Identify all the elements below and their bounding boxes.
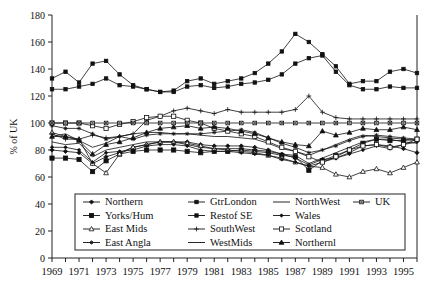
chart-container: 020406080100120140160180% of UK196919711… (0, 0, 443, 293)
data-point (104, 126, 108, 130)
data-point (388, 145, 392, 149)
data-point (388, 85, 391, 88)
data-point (64, 146, 67, 149)
data-point (375, 88, 378, 91)
data-point (307, 168, 311, 172)
data-point (267, 62, 270, 65)
legend-marker-icon (195, 200, 198, 203)
data-point (401, 147, 405, 151)
y-tick-label: 100 (30, 118, 45, 129)
data-point (104, 155, 108, 159)
data-point (172, 114, 176, 118)
data-point (253, 81, 256, 84)
data-point (104, 159, 108, 163)
series-layer (50, 32, 420, 179)
data-point (280, 145, 284, 149)
data-point (50, 156, 54, 160)
legend-item-label: Yorks/Hum (105, 210, 154, 221)
data-point (334, 70, 337, 73)
data-point (158, 148, 162, 152)
x-tick-label: 1995 (393, 266, 414, 277)
data-point (240, 77, 243, 80)
data-point (320, 129, 325, 133)
legend-marker-icon (195, 214, 198, 217)
data-point (415, 160, 420, 164)
data-point (415, 151, 419, 155)
data-point (415, 137, 419, 141)
x-tick-label: 1987 (285, 266, 306, 277)
data-point (348, 84, 351, 87)
data-point (104, 77, 107, 80)
data-point (402, 67, 405, 70)
data-point (77, 157, 81, 161)
data-point (280, 73, 283, 76)
data-point (347, 148, 351, 152)
data-point (307, 57, 310, 60)
data-point (374, 166, 379, 170)
data-point (226, 79, 229, 82)
x-tick-label: 1985 (258, 266, 279, 277)
x-tick-label: 1979 (177, 266, 198, 277)
data-point (213, 82, 216, 85)
data-point (280, 50, 283, 53)
data-point (104, 59, 107, 62)
data-point (253, 71, 256, 74)
data-point (334, 65, 337, 68)
data-point (294, 32, 297, 35)
legend-marker-icon (89, 213, 93, 217)
data-point (199, 77, 202, 80)
legend: NorthernYorks/HumEast MidsEast AnglaGtrL… (75, 194, 405, 250)
data-point (321, 54, 324, 57)
data-point (185, 79, 188, 82)
data-point (64, 88, 67, 91)
data-point (185, 149, 189, 153)
y-tick-label: 80 (35, 145, 45, 156)
data-point (361, 126, 366, 130)
data-point (266, 140, 270, 144)
data-point (239, 144, 243, 148)
y-tick-label: 40 (35, 199, 45, 210)
data-point (91, 62, 94, 65)
legend-item-label: WestMids (210, 237, 252, 248)
legend-item-label: SouthWest (210, 223, 255, 234)
legend-item-label: Wales (295, 210, 320, 221)
data-point (361, 144, 365, 148)
data-point (63, 156, 67, 160)
data-point (185, 85, 188, 88)
y-tick-label: 120 (30, 91, 45, 102)
y-tick-label: 0 (40, 253, 45, 264)
data-point (131, 85, 134, 88)
data-point (63, 149, 67, 153)
x-tick-label: 1993 (366, 266, 387, 277)
data-point (253, 145, 257, 149)
series-uk (50, 121, 419, 125)
legend-item-label: NorthWest (295, 196, 340, 207)
x-tick-label: 1981 (204, 266, 225, 277)
x-tick-label: 1975 (123, 266, 144, 277)
x-tick-label: 1989 (312, 266, 333, 277)
data-point (50, 77, 53, 80)
data-point (402, 86, 405, 89)
x-tick-label: 1991 (339, 266, 360, 277)
data-point (374, 143, 378, 147)
data-point (293, 149, 297, 153)
data-point (320, 160, 324, 164)
data-point (334, 155, 338, 159)
data-point (172, 90, 175, 93)
series-southwest (50, 94, 420, 142)
data-point (307, 40, 310, 43)
legend-item-label: Northern (105, 196, 144, 207)
y-tick-label: 20 (35, 226, 45, 237)
legend-item-label: UK (375, 196, 391, 207)
data-point (307, 155, 311, 159)
legend-item-label: East Mids (105, 223, 147, 234)
data-point (145, 116, 149, 120)
line-chart: 020406080100120140160180% of UK196919711… (0, 0, 443, 293)
data-point (118, 84, 121, 87)
data-point (415, 71, 418, 74)
data-point (77, 81, 80, 84)
legend-item-label: Northernl (295, 237, 336, 248)
legend-item-label: Restof SE (210, 210, 252, 221)
data-point (226, 85, 229, 88)
data-point (361, 79, 364, 82)
